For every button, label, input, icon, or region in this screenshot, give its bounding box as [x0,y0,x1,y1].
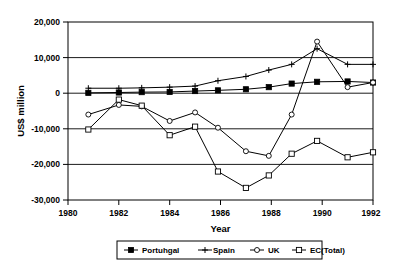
y-tick-label: -20,000 [31,159,60,169]
data-point [370,61,376,67]
data-point [192,124,197,129]
x-tick-label: 1980 [59,208,78,218]
x-tick-label: 1984 [160,208,179,218]
series-ec-total [86,97,376,190]
data-point [86,112,91,117]
y-tick-labels: 20,000 10,000 0 -10,000 -20,000 -30,000 [31,17,60,205]
legend-label: EC(Total) [310,246,345,255]
data-point [289,61,295,67]
series-line [88,81,373,92]
data-point [370,150,375,155]
x-tick-label: 1992 [362,208,381,218]
x-tick-label: 1982 [109,208,128,218]
data-point [266,173,271,178]
x-tick-labels: 1980 1982 1984 1986 1988 1990 1992 [59,208,381,218]
series-line [88,42,373,156]
data-point [345,85,350,90]
legend: PortuhgalSpainUKEC(Total) [117,241,345,259]
legend-label: UK [268,246,280,255]
legend-marker [128,247,133,252]
data-point [167,118,172,123]
gridlines [68,58,373,165]
line-chart: 20,000 10,000 0 -10,000 -20,000 -30,000 … [0,0,397,273]
y-axis-ticks [63,22,68,200]
series-uk [86,39,376,158]
data-point [192,88,197,93]
y-tick-label: 10,000 [34,53,60,63]
data-point [345,155,350,160]
legend-label: Spain [213,246,235,255]
data-point [215,78,221,84]
data-point [167,133,172,138]
x-axis-ticks [68,200,373,205]
y-tick-label: -10,000 [31,124,60,134]
data-point [314,138,319,143]
legend-marker [255,248,260,253]
x-tick-label: 1988 [262,208,281,218]
data-point [315,39,320,44]
series-line [88,49,373,89]
series-spain [85,46,376,92]
y-tick-label: 0 [55,88,60,98]
series-line [88,100,373,188]
data-point [345,79,350,84]
y-tick-label: -30,000 [31,195,60,205]
data-point [215,88,220,93]
data-point [266,85,271,90]
legend-label: Portuhgal [142,246,179,255]
x-tick-label: 1986 [211,208,230,218]
data-point [139,103,144,108]
series-layer [85,39,376,190]
data-point [215,125,220,130]
data-point [243,87,248,92]
data-point [345,61,351,67]
data-point [193,110,198,115]
x-axis-title: Year [210,223,230,234]
x-tick-label: 1990 [313,208,332,218]
legend-marker [296,247,301,252]
y-axis-title: US$ million [15,85,26,137]
data-point [371,80,376,85]
data-point [243,149,248,154]
data-point [289,151,294,156]
data-point [289,81,294,86]
data-point [116,102,121,107]
data-point [215,169,220,174]
legend-items: PortuhgalSpainUKEC(Total) [124,246,345,255]
data-point [289,112,294,117]
data-point [266,67,272,73]
data-point [86,127,91,132]
chart-figure: 20,000 10,000 0 -10,000 -20,000 -30,000 … [0,0,397,273]
data-point [243,185,248,190]
data-point [266,153,271,158]
y-tick-label: 20,000 [34,17,60,27]
data-point [243,73,249,79]
data-point [314,79,319,84]
data-point [116,97,121,102]
